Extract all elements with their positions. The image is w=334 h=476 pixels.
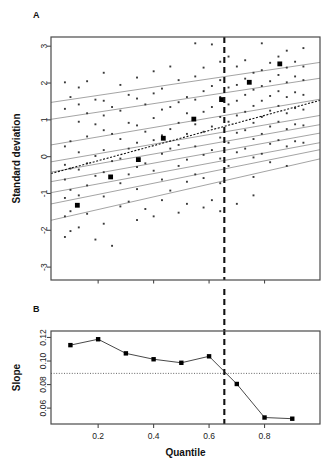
highlighted-point (247, 80, 252, 85)
panel-b-ytick-label: 0.10 (38, 352, 48, 369)
panel-a-ytick-label: -1 (39, 189, 49, 197)
scatter-point (203, 154, 205, 156)
scatter-point (94, 175, 96, 177)
scatter-point (153, 117, 155, 119)
scatter-point (64, 145, 66, 147)
panel-a-ytick-label: 2 (39, 80, 49, 85)
scatter-point (261, 69, 263, 71)
scatter-point (169, 190, 171, 192)
scatter-point (161, 88, 163, 90)
scatter-point (286, 112, 288, 114)
scatter-point (294, 123, 296, 125)
scatter-point (261, 133, 263, 135)
scatter-point (119, 158, 121, 160)
scatter-point (161, 109, 163, 111)
scatter-point (278, 56, 280, 58)
scatter-point (253, 194, 255, 196)
scatter-point (244, 148, 246, 150)
scatter-point (186, 112, 188, 114)
scatter-point (203, 177, 205, 179)
scatter-point (269, 126, 271, 128)
scatter-point (194, 145, 196, 147)
scatter-point (70, 96, 72, 98)
scatter-point (128, 201, 130, 203)
scatter-point (94, 123, 96, 125)
scatter-point (236, 84, 238, 86)
quantile-regression-line-1 (51, 150, 320, 204)
scatter-point (186, 133, 188, 135)
scatter-point (261, 100, 263, 102)
scatter-point (103, 196, 105, 198)
scatter-point (153, 139, 155, 141)
scatter-point (86, 136, 88, 138)
regression-quantile-figure: A-3-2-10123Standard deviationB0.060.080.… (0, 0, 334, 476)
scatter-point (161, 199, 163, 201)
scatter-point (111, 245, 113, 247)
slope-data-point (151, 357, 155, 361)
panel-b-ytick-label: 0.06 (38, 400, 48, 417)
scatter-point (236, 115, 238, 117)
x-axis-title: Quantile (165, 447, 205, 458)
scatter-point (203, 67, 205, 69)
scatter-point (153, 215, 155, 217)
slope-data-point (68, 343, 72, 347)
scatter-point (86, 112, 88, 114)
slope-data-point (290, 417, 294, 421)
figure-container: A-3-2-10123Standard deviationB0.060.080.… (0, 0, 334, 476)
scatter-point (178, 122, 180, 124)
scatter-point (286, 165, 288, 167)
scatter-point (286, 145, 288, 147)
scatter-point (86, 213, 88, 215)
scatter-point (278, 74, 280, 76)
scatter-point (119, 182, 121, 184)
panel-a-plot-area (51, 37, 320, 280)
quantile-regression-line-0 (51, 159, 320, 220)
scatter-point (219, 116, 221, 118)
scatter-point (136, 98, 138, 100)
scatter-point (153, 70, 155, 72)
scatter-point (294, 75, 296, 77)
scatter-point (178, 101, 180, 103)
scatter-point (86, 80, 88, 82)
scatter-point (261, 85, 263, 87)
scatter-point (253, 72, 255, 74)
scatter-point (278, 121, 280, 123)
scatter-point (219, 182, 221, 184)
scatter-point (70, 230, 72, 232)
scatter-point (169, 106, 171, 108)
ols-reference-line (51, 100, 320, 173)
panel-b-plot-area (51, 337, 320, 421)
scatter-point (294, 61, 296, 63)
scatter-point (302, 124, 304, 126)
scatter-point (186, 181, 188, 183)
scatter-point (128, 122, 130, 124)
scatter-point (169, 128, 171, 130)
panel-a-ytick-label: 3 (39, 44, 49, 49)
scatter-point (103, 115, 105, 117)
scatter-point (294, 91, 296, 93)
scatter-point (211, 126, 213, 128)
scatter-point (302, 47, 304, 49)
slope-data-point (124, 351, 128, 355)
panel-a-ytick-label: 0 (39, 154, 49, 159)
scatter-point (144, 131, 146, 133)
scatter-point (144, 208, 146, 210)
scatter-point (211, 106, 213, 108)
scatter-point (269, 161, 271, 163)
scatter-point (94, 239, 96, 241)
scatter-point (103, 171, 105, 173)
scatter-point (64, 108, 66, 110)
scatter-point (294, 140, 296, 142)
panel-a-frame (51, 37, 320, 280)
scatter-point (178, 165, 180, 167)
scatter-point (103, 100, 105, 102)
scatter-point (103, 129, 105, 131)
scatter-point (211, 43, 213, 45)
scatter-point (253, 138, 255, 140)
scatter-point (111, 106, 113, 108)
scatter-point (119, 110, 121, 112)
scatter-point (228, 87, 230, 89)
scatter-point (161, 179, 163, 181)
scatter-point (144, 162, 146, 164)
scatter-point (161, 153, 163, 155)
